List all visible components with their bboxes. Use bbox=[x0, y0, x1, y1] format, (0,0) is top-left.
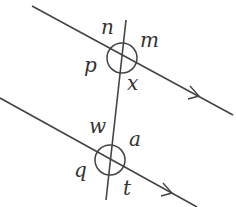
upper-parallel-line bbox=[32, 6, 233, 115]
angle-diagram: n m p x w a q t bbox=[0, 0, 236, 207]
angle-label-n: n bbox=[101, 15, 114, 39]
angle-label-p: p bbox=[84, 53, 97, 77]
upper-arrow-icon bbox=[188, 86, 199, 99]
angle-label-w: w bbox=[89, 114, 106, 138]
angle-label-q: q bbox=[74, 158, 87, 182]
angle-label-x: x bbox=[127, 71, 138, 95]
angle-label-m: m bbox=[140, 28, 159, 52]
angle-label-a: a bbox=[129, 127, 141, 151]
angle-label-t: t bbox=[123, 176, 132, 200]
